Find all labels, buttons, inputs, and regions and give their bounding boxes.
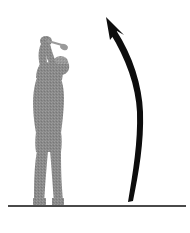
golfer-front-foot [52,198,64,206]
golfer-neck [54,72,63,80]
golfer-hips [35,132,62,152]
background-surface [0,0,190,233]
golfer-torso [33,70,64,140]
golf-swing-illustration: Golf swing follow-through with upward cu… [0,0,190,233]
scene-canvas [0,0,190,233]
golfer-rear-foot [33,198,46,206]
golfer-elbow-mass [38,64,52,78]
